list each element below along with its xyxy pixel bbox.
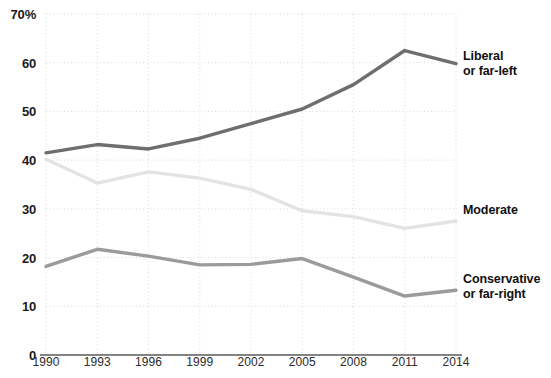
series-label-line: or far-right xyxy=(463,287,540,302)
series-label-line: Liberal xyxy=(463,49,517,64)
series-line-moderate xyxy=(46,159,456,228)
series-label-line: or far-left xyxy=(463,64,517,79)
series-label-line: Conservative xyxy=(463,272,540,287)
y-tick-label: 10 xyxy=(22,300,36,313)
line-chart: 70%6050403020100 19901993199619992002200… xyxy=(0,0,551,378)
x-tick-label: 2011 xyxy=(392,355,418,369)
x-tick-label: 1999 xyxy=(186,355,213,369)
x-tick-label: 2014 xyxy=(442,355,469,369)
y-tick-label: 40 xyxy=(22,154,36,167)
series-label-conservative: Conservativeor far-right xyxy=(463,272,540,302)
x-tick-label: 1996 xyxy=(135,355,162,369)
x-tick-label: 1990 xyxy=(32,355,59,369)
y-tick-label: 30 xyxy=(22,203,36,216)
series-label-moderate: Moderate xyxy=(463,203,518,218)
x-tick-label: 2008 xyxy=(340,355,367,369)
y-tick-label: 60 xyxy=(22,57,36,70)
gridlines xyxy=(46,14,456,355)
y-axis: 70%6050403020100 xyxy=(0,0,36,378)
data-series xyxy=(46,51,456,297)
y-tick-label: 20 xyxy=(22,252,36,265)
y-tick-label: 70% xyxy=(11,8,36,21)
series-label-liberal: Liberalor far-left xyxy=(463,49,517,79)
x-tick-label: 1993 xyxy=(84,355,111,369)
series-label-line: Moderate xyxy=(463,203,518,218)
x-tick-label: 2005 xyxy=(289,355,316,369)
x-axis: 199019931996199920022005200820112014 xyxy=(0,355,551,375)
x-tick-label: 2002 xyxy=(237,355,264,369)
y-tick-label: 50 xyxy=(22,105,36,118)
